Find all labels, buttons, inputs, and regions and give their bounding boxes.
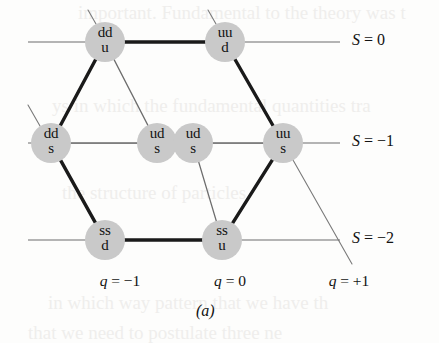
edge-n6-n8 [231,157,274,225]
edge-n5-n8 [198,159,217,223]
charge-symbol: q [329,272,337,289]
edge-n1-n3 [59,57,97,128]
stub-mid-left-node [28,105,40,126]
stub-right-diagonal [293,160,352,264]
strangeness-symbol: S [352,31,360,48]
edge-n1-n4 [113,57,149,128]
charge-label-q0: q = 0 [185,272,275,290]
edge-n3-n7 [59,158,96,225]
figure-caption: (a) [196,302,215,320]
strangeness-label-sm2: S = −2 [352,229,394,247]
node-disc-uus[interactable] [263,123,303,163]
node-disc-uds[interactable] [137,123,177,163]
strangeness-symbol: S [352,229,360,246]
stub-top-right-node [208,10,216,24]
node-disc-ssd[interactable] [85,220,125,260]
diagram-canvas [0,0,439,343]
node-disc-uds[interactable] [173,123,213,163]
node-disc-uud[interactable] [205,22,245,62]
baryon-weight-diagram-figure: important. Fundamental to the theory was… [0,0,439,343]
charge-label-qm1: q = −1 [75,272,165,290]
edge-n2-n6 [233,57,274,129]
node-disc-dds[interactable] [31,123,71,163]
charge-symbol: q [214,272,222,289]
node-disc-ssu[interactable] [202,220,242,260]
quark-state-nodes [31,22,303,260]
strangeness-label-sm1: S = −1 [352,132,394,150]
node-disc-ddu[interactable] [85,22,125,62]
strangeness-label-s0: S = 0 [352,31,385,49]
stub-top-left-node [88,10,96,24]
charge-symbol: q [100,272,108,289]
strangeness-symbol: S [352,132,360,149]
charge-label-qp1: q = +1 [304,272,394,290]
